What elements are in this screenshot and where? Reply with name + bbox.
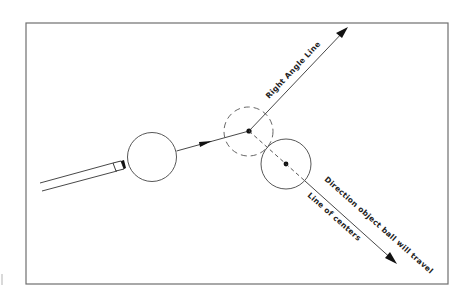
cue-ball-path — [177, 131, 250, 151]
direction-arrowhead-icon — [385, 252, 397, 264]
line-of-centers-dashed — [249, 131, 305, 181]
cue-ball — [128, 133, 177, 182]
right-angle-line — [249, 27, 348, 131]
edge-mark — [1, 274, 3, 285]
billiards-diagram: Right Angle Line Direction object ball w… — [0, 0, 471, 299]
cue-stick — [40, 160, 126, 191]
path-arrowhead-icon — [199, 141, 212, 147]
right-angle-line-label: Right Angle Line — [264, 39, 322, 100]
right-angle-arrowhead-icon — [336, 27, 348, 38]
